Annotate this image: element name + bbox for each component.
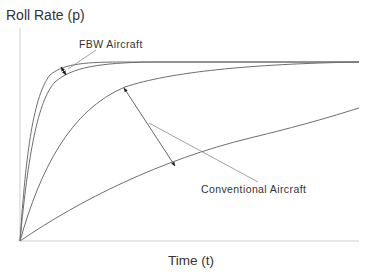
conventional-curve-faster	[20, 62, 359, 241]
fbw-curve-lower	[20, 62, 359, 241]
conventional-curve-slower	[20, 108, 359, 241]
y-axis-label: Roll Rate (p)	[6, 7, 85, 23]
conventional-aircraft-label: Conventional Aircraft	[201, 183, 306, 195]
fbw-double-arrow	[61, 67, 66, 75]
conventional-leader-line	[149, 123, 258, 182]
x-axis-label: Time (t)	[168, 253, 214, 268]
fbw-aircraft-label: FBW Aircraft	[79, 38, 143, 50]
fbw-curve-upper	[20, 62, 359, 241]
roll-rate-diagram	[0, 0, 374, 277]
conventional-double-arrow	[124, 88, 175, 166]
